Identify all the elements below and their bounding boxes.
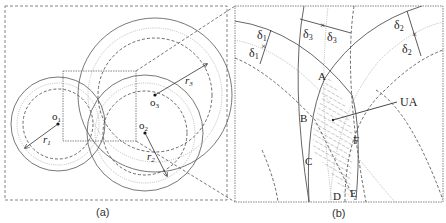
label-delta2-a: δ2: [394, 18, 404, 33]
radius-arrow-r1: [25, 124, 58, 148]
ua-label: UA: [400, 95, 418, 109]
caption-b: (b): [332, 207, 345, 219]
point-label-d: D: [333, 190, 341, 202]
label-o1: o1: [52, 110, 62, 124]
svg-text:×: ×: [412, 29, 417, 39]
caption-a: (a): [96, 206, 109, 218]
point-label-a: A: [318, 70, 326, 82]
radius-arrow-r3: [155, 64, 207, 95]
label-r3: r3: [185, 74, 193, 88]
label-o2: o2: [139, 119, 149, 133]
label-o3: o3: [150, 96, 160, 110]
panel-a: o1 o2 o3 r1 r2 r3 (a): [5, 6, 235, 218]
point-label-e: E: [350, 187, 357, 199]
figure: o1 o2 o3 r1 r2 r3 (a): [0, 0, 446, 223]
label-r1: r1: [43, 133, 51, 147]
point-label-f: F: [353, 134, 359, 146]
label-delta1-b: δ1: [249, 46, 259, 61]
label-delta2-b: δ2: [402, 42, 412, 57]
ua-anchor-dot: [332, 119, 334, 121]
projection-line-top: [136, 6, 235, 71]
panel-b: × × × δ1 δ1 δ3 δ3 δ2 δ2 A B C D E F UA (…: [235, 6, 443, 219]
point-label-c: C: [305, 155, 312, 167]
label-delta3-a: δ3: [303, 27, 313, 42]
svg-text:×: ×: [320, 20, 325, 30]
label-delta1-a: δ1: [257, 28, 267, 43]
label-delta3-b: δ3: [327, 30, 337, 45]
point-label-b: B: [300, 112, 307, 124]
